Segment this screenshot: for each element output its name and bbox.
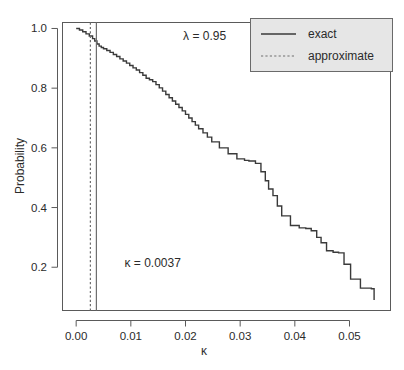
kappa-annotation: κ = 0.0037 <box>125 256 182 270</box>
x-tick-label: 0.02 <box>174 330 196 342</box>
lambda-annotation: λ = 0.95 <box>183 29 226 43</box>
x-tick-label: 0.05 <box>338 330 360 342</box>
legend: exact approximate <box>251 19 393 72</box>
x-tick-label: 0.04 <box>284 330 307 342</box>
y-tick-label: 0.4 <box>31 202 48 214</box>
x-tick-label: 0.03 <box>229 330 251 342</box>
y-tick-label: 0.8 <box>31 82 47 94</box>
legend-label-approximate: approximate <box>308 49 374 63</box>
y-tick-label: 0.2 <box>31 261 47 273</box>
probability-vs-kappa-chart: κ Probability λ = 0.95 κ = 0.0037 exact … <box>0 0 404 370</box>
x-tick-label: 0.01 <box>120 330 142 342</box>
y-tick-label: 1.0 <box>31 22 47 34</box>
legend-label-exact: exact <box>308 27 337 41</box>
x-tick-label: 0.00 <box>65 330 87 342</box>
y-axis-title: Probability <box>13 138 27 194</box>
y-tick-label: 0.6 <box>31 142 47 154</box>
x-axis-title: κ <box>201 344 208 358</box>
